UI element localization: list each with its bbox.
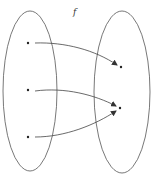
mapping-arrow-3 (35, 111, 116, 137)
domain-set-ellipse (3, 11, 57, 171)
domain-point-1 (27, 42, 29, 44)
codomain-point-2 (119, 107, 121, 109)
mapping-arrow-1 (35, 43, 117, 65)
function-mapping-diagram: f (0, 0, 151, 179)
domain-point-3 (27, 136, 29, 138)
function-label: f (72, 7, 78, 17)
codomain-set-ellipse (94, 11, 150, 173)
domain-point-2 (27, 89, 29, 91)
mapping-arrow-2 (35, 90, 116, 106)
codomain-point-1 (120, 66, 122, 68)
